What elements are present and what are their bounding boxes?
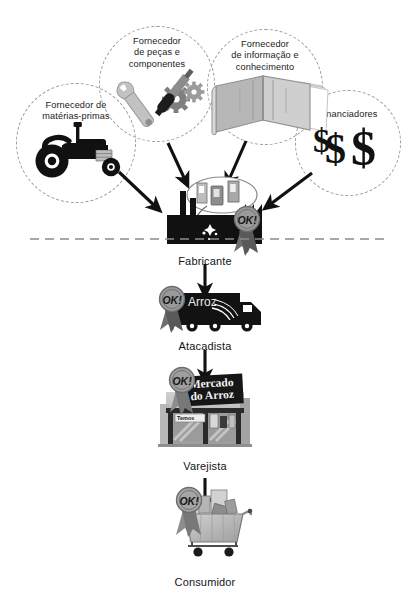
svg-text:$: $ [325,126,346,172]
tractor-icon [36,122,121,178]
svg-text:OK!: OK! [172,375,192,387]
delivery-truck-icon: Arroz OK! [160,287,262,334]
svg-text:OK!: OK! [162,294,182,306]
factory-icon: OK! [167,177,262,256]
svg-text:$: $ [351,120,376,176]
supply-chain-diagram: Fornecedor de matérias-primas Fornecedor… [0,0,410,603]
diagram-artwork-layer: $ $ $ [0,0,410,603]
caption-atacadista: Atacadista [0,340,410,352]
shopping-cart-icon: OK! [176,488,252,557]
flow-informacao-to-fabricante [228,141,246,182]
flow-financiadores-to-fabricante [268,173,312,206]
truck-product-label: Arroz [188,295,217,309]
caption-fabricante: Fabricante [0,255,410,267]
open-book-icon [212,76,328,135]
svg-text:OK!: OK! [237,214,257,226]
store-sub-sign: Temos [177,415,194,421]
storefront-icon: Mercado do Arroz Temos OK! [158,368,252,448]
store-sign-line2: do Arroz [190,388,234,402]
dollar-signs-icon: $ $ $ [313,120,376,176]
flow-materias-to-fabricante [119,172,157,208]
caption-consumidor: Consumidor [0,576,410,588]
flow-pecas-to-fabricante [168,143,186,182]
wrench-screwdriver-gears-icon [114,67,205,130]
svg-text:OK!: OK! [179,495,199,507]
caption-varejista: Varejista [0,460,410,472]
